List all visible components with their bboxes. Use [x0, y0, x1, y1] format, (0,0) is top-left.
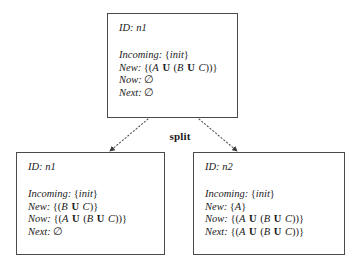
node-right-field-incoming: Incoming: {init}: [205, 188, 340, 201]
field-value-incoming: {init}: [165, 49, 189, 60]
diagram-canvas: split ID: n1 Incoming: {init} New: {(A U…: [0, 0, 362, 271]
field-value-now: {(A U (B U C))}: [53, 213, 127, 224]
node-left-content: ID: n1 Incoming: {init} New: {(B U C)} N…: [28, 160, 160, 238]
field-label-next: Next:: [119, 87, 142, 98]
field-value-incoming: {init}: [74, 188, 98, 199]
node-box-top: ID: n1 Incoming: {init} New: {(A U (B U …: [107, 13, 238, 118]
field-label-new: New:: [205, 201, 227, 212]
node-right-id-value: n2: [222, 161, 233, 172]
node-top-field-next: Next: ∅: [119, 87, 233, 100]
field-label-now: Now:: [28, 213, 51, 224]
field-value-next: ∅: [53, 226, 63, 237]
field-label-incoming: Incoming:: [28, 188, 71, 199]
field-value-next: ∅: [144, 87, 154, 98]
node-top-field-now: Now: ∅: [119, 74, 233, 87]
node-right-id-row: ID: n2: [205, 160, 340, 173]
field-value-new: {(B U C)}: [53, 201, 98, 212]
field-label-now: Now:: [205, 213, 228, 224]
node-top-field-new: New: {(A U (B U C))}: [119, 62, 233, 75]
node-box-left: ID: n1 Incoming: {init} New: {(B U C)} N…: [16, 152, 165, 255]
node-box-right: ID: n2 Incoming: {init} New: {A} Now: {(…: [193, 152, 345, 255]
node-left-field-new: New: {(B U C)}: [28, 201, 160, 214]
field-label-new: New:: [28, 201, 50, 212]
node-left-fields: Incoming: {init} New: {(B U C)} Now: {(A…: [28, 188, 160, 238]
node-right-field-next: Next: {(A U (B U C))}: [205, 226, 340, 239]
field-value-incoming: {init}: [251, 188, 275, 199]
field-label-now: Now:: [119, 74, 142, 85]
node-right-field-new: New: {A}: [205, 201, 340, 214]
field-label-incoming: Incoming:: [119, 49, 162, 60]
node-top-id-row: ID: n1: [119, 21, 233, 34]
edge-split-left: [110, 119, 148, 151]
node-left-field-next: Next: ∅: [28, 226, 160, 239]
node-left-field-now: Now: {(A U (B U C))}: [28, 213, 160, 226]
field-label-next: Next:: [205, 226, 228, 237]
field-label-next: Next:: [28, 226, 51, 237]
field-value-next: {(A U (B U C))}: [230, 226, 304, 237]
node-left-id-value: n1: [45, 161, 56, 172]
node-top-id-value: n1: [136, 22, 147, 33]
node-right-field-now: Now: {(A U (B U C))}: [205, 213, 340, 226]
edge-label-split: split: [150, 130, 210, 142]
field-label-new: New:: [119, 62, 141, 73]
node-top-fields: Incoming: {init} New: {(A U (B U C))} No…: [119, 49, 233, 99]
field-value-new: {(A U (B U C))}: [144, 62, 218, 73]
node-top-id-label: ID:: [119, 22, 134, 33]
field-value-now: {(A U (B U C))}: [230, 213, 304, 224]
node-right-id-label: ID:: [205, 161, 220, 172]
field-value-now: ∅: [144, 74, 154, 85]
node-left-field-incoming: Incoming: {init}: [28, 188, 160, 201]
node-left-id-row: ID: n1: [28, 160, 160, 173]
node-top-field-incoming: Incoming: {init}: [119, 49, 233, 62]
node-top-content: ID: n1 Incoming: {init} New: {(A U (B U …: [119, 21, 233, 99]
node-left-id-label: ID:: [28, 161, 43, 172]
field-value-new: {A}: [230, 201, 247, 212]
node-right-content: ID: n2 Incoming: {init} New: {A} Now: {(…: [205, 160, 340, 238]
node-right-fields: Incoming: {init} New: {A} Now: {(A U (B …: [205, 188, 340, 238]
field-label-incoming: Incoming:: [205, 188, 248, 199]
